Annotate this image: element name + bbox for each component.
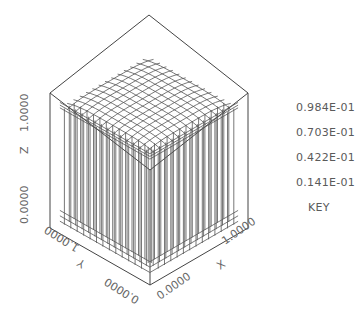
key-value-1: 0.984E-01 [296, 101, 355, 114]
x-axis-labels: 0.0000 X 1.0000 [154, 215, 258, 303]
x-max-label: 1.0000 [219, 215, 258, 248]
x-min-label: 0.0000 [154, 270, 193, 303]
x-axis-title: X [214, 257, 228, 272]
y-axis-title: Y [75, 256, 89, 271]
z-axis-labels: 1.0000 Z 0.0000 [18, 94, 31, 225]
z-axis-title: Z [18, 146, 31, 154]
key-value-3: 0.422E-01 [296, 151, 355, 164]
z-max-label: 1.0000 [18, 94, 31, 133]
z-min-label: 0.0000 [18, 186, 31, 225]
y-max-label: 1.0000 [42, 223, 82, 254]
key-title: KEY [308, 201, 330, 214]
isosurface-wireframe [60, 59, 238, 272]
key-value-2: 0.703E-01 [296, 126, 355, 139]
y-min-label: 0.0000 [102, 275, 142, 306]
key-value-4: 0.141E-01 [296, 176, 355, 189]
y-axis-labels: 1.0000 Y 0.0000 [42, 223, 142, 306]
